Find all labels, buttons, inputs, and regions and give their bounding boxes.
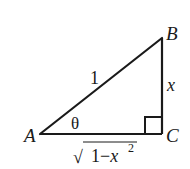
right-triangle-diagram: A B C θ 1 x √ 1−x 2 [0,0,190,169]
radical-sign-icon: √ [73,147,83,167]
angle-label-theta: θ [71,114,79,133]
opposite-label: x [166,75,175,95]
right-angle-marker [145,117,162,134]
adjacent-exponent: 2 [128,141,134,155]
hypotenuse-label: 1 [90,68,99,88]
side-hypotenuse-ab [40,38,162,134]
vertex-label-c: C [166,125,179,146]
adjacent-radicand: 1−x [91,146,118,166]
vertex-label-b: B [166,23,178,44]
adjacent-label: √ 1−x 2 [73,141,137,167]
vertex-label-a: A [22,125,36,146]
